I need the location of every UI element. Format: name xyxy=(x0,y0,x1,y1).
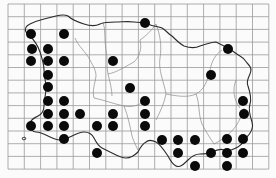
occurrence-dot xyxy=(43,121,53,131)
occurrence-dot xyxy=(92,148,102,158)
occurrence-dot xyxy=(222,148,232,158)
occurrence-dot xyxy=(140,109,150,119)
occurrence-dot xyxy=(238,148,248,158)
occurrence-dot xyxy=(43,70,53,80)
occurrence-dot xyxy=(92,121,102,131)
occurrence-dot xyxy=(59,121,69,131)
map-canvas xyxy=(0,0,276,178)
occurrence-dot xyxy=(222,134,232,144)
occurrence-dot xyxy=(223,44,233,54)
occurrence-dot xyxy=(75,109,85,119)
occurrence-dot xyxy=(140,18,150,28)
occurrence-dot xyxy=(173,148,183,158)
occurrence-dot xyxy=(43,109,53,119)
occurrence-dot xyxy=(26,29,36,39)
distribution-map xyxy=(0,0,276,178)
occurrence-dot xyxy=(140,121,150,131)
occurrence-dot xyxy=(43,56,53,66)
occurrence-dot xyxy=(27,44,37,54)
occurrence-dot xyxy=(190,135,200,145)
occurrence-dot xyxy=(59,29,69,39)
occurrence-dot xyxy=(190,161,200,171)
occurrence-dot xyxy=(125,83,135,93)
occurrence-dot xyxy=(26,121,36,131)
occurrence-dot xyxy=(108,121,118,131)
occurrence-dot xyxy=(108,56,118,66)
occurrence-dot xyxy=(43,96,53,106)
occurrence-dot xyxy=(26,56,36,66)
occurrence-dot xyxy=(43,44,53,54)
occurrence-dot xyxy=(43,82,53,92)
occurrence-dot xyxy=(59,56,69,66)
occurrence-dot xyxy=(59,109,69,119)
occurrence-dot xyxy=(238,96,248,106)
occurrence-dot xyxy=(140,96,150,106)
occurrence-dot xyxy=(239,109,249,119)
occurrence-dot xyxy=(173,135,183,145)
occurrence-dot xyxy=(59,134,69,144)
occurrence-dot xyxy=(206,70,216,80)
occurrence-dot xyxy=(59,96,69,106)
occurrence-dot xyxy=(157,135,167,145)
occurrence-dot xyxy=(108,109,118,119)
occurrence-dot xyxy=(206,148,216,158)
occurrence-dot xyxy=(238,134,248,144)
occurrence-dot xyxy=(222,161,232,171)
